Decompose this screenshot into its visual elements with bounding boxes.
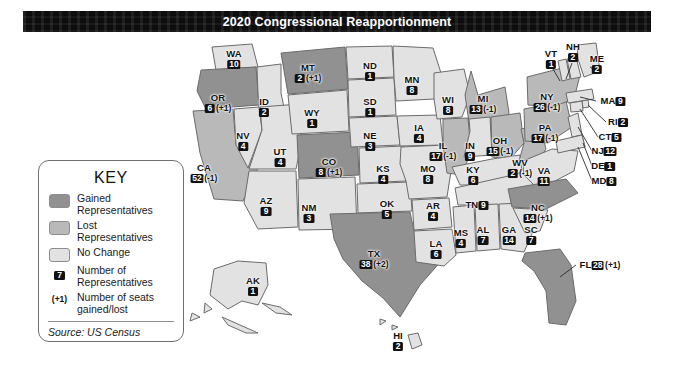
state-seats-row-la: 6 bbox=[430, 249, 443, 259]
state-seat-count-sd: 1 bbox=[365, 108, 375, 118]
state-label-ms: MS4 bbox=[454, 228, 468, 248]
state-seat-count-il: 17 bbox=[430, 152, 443, 162]
state-seats-row-va: 11 bbox=[538, 176, 551, 186]
map-island-1 bbox=[190, 313, 200, 321]
state-seats-row-ca: 52(-1) bbox=[191, 173, 218, 183]
state-seats-row-tx: 38(+2) bbox=[359, 259, 388, 269]
state-seat-count-az: 9 bbox=[261, 207, 271, 217]
state-delta-mi: (-1) bbox=[483, 104, 496, 114]
state-label-mt: MT2(+1) bbox=[295, 63, 322, 83]
state-seats-row-tn: 9 bbox=[478, 199, 488, 210]
state-seat-count-wy: 1 bbox=[307, 119, 317, 129]
state-seat-count-vt: 1 bbox=[546, 60, 556, 70]
state-delta-pa: (-1) bbox=[545, 133, 558, 143]
state-seats-row-sc: 7 bbox=[524, 235, 537, 245]
state-label-la: LA6 bbox=[430, 239, 443, 259]
state-label-mo: MO8 bbox=[420, 164, 436, 184]
state-seats-row-ok: 5 bbox=[380, 209, 394, 219]
state-nj[interactable] bbox=[568, 113, 582, 137]
state-label-me: ME2 bbox=[590, 54, 604, 74]
state-seat-count-in: 9 bbox=[465, 152, 475, 162]
state-seat-count-mi: 13 bbox=[470, 105, 483, 115]
state-label-ny: NY26(-1) bbox=[534, 92, 561, 112]
state-abbr-nj: NJ bbox=[591, 145, 603, 156]
state-seat-count-me: 2 bbox=[592, 65, 602, 75]
state-delta-co: (+1) bbox=[327, 167, 342, 177]
state-abbr-mo: MO bbox=[420, 164, 436, 174]
state-label-sd: SD1 bbox=[363, 97, 376, 117]
legend-item-label-3: Number ofRepresentatives bbox=[77, 265, 153, 289]
state-delta-mt: (+1) bbox=[306, 73, 321, 83]
legend-delta-sample: (+1) bbox=[49, 294, 70, 304]
state-seat-count-nj: 12 bbox=[604, 147, 617, 157]
state-seat-count-nv: 4 bbox=[238, 142, 248, 152]
legend-item-label-4: Number of seatsgained/lost bbox=[77, 292, 154, 316]
legend-title: KEY bbox=[48, 169, 174, 187]
state-md[interactable] bbox=[556, 135, 585, 153]
state-hi[interactable] bbox=[408, 333, 422, 349]
state-seats-row-wa: 10 bbox=[226, 59, 242, 69]
state-abbr-ks: KS bbox=[376, 164, 389, 174]
state-label-il: IL17(-1) bbox=[430, 141, 457, 161]
state-seats-row-ri: 2 bbox=[618, 116, 628, 127]
state-label-co: CO8(+1) bbox=[316, 157, 343, 177]
state-abbr-sc: SC bbox=[524, 225, 537, 235]
leader-line-ri bbox=[588, 105, 606, 122]
state-abbr-id: ID bbox=[259, 97, 269, 107]
state-seat-count-ar: 4 bbox=[428, 212, 438, 222]
legend-item-2: No Change bbox=[48, 247, 174, 262]
state-abbr-nd: ND bbox=[363, 61, 377, 71]
title-banner: 2020 Congressional Reapportionment bbox=[23, 11, 651, 32]
state-abbr-nh: NH bbox=[566, 42, 580, 52]
state-fl[interactable] bbox=[522, 249, 576, 325]
state-seat-count-wv: 2 bbox=[508, 169, 518, 179]
state-seats-row-wv: 2(-1) bbox=[508, 168, 532, 178]
state-label-ri: RI2 bbox=[608, 117, 628, 127]
state-abbr-wi: WI bbox=[442, 95, 454, 105]
state-seat-count-ky: 6 bbox=[468, 176, 478, 186]
state-seats-row-me: 2 bbox=[590, 64, 604, 74]
state-delta-ca: (-1) bbox=[204, 173, 217, 183]
state-seat-count-ok: 5 bbox=[382, 210, 392, 220]
state-seats-row-de: 1 bbox=[605, 160, 615, 171]
state-abbr-wa: WA bbox=[226, 49, 242, 59]
map-island-3 bbox=[262, 303, 292, 315]
state-seat-count-id: 2 bbox=[259, 108, 269, 118]
state-seats-row-ne: 3 bbox=[363, 141, 376, 151]
state-seats-row-oh: 15(-1) bbox=[487, 146, 514, 156]
state-label-wi: WI8 bbox=[442, 95, 454, 115]
state-abbr-ar: AR bbox=[426, 201, 440, 211]
state-seat-count-ms: 4 bbox=[456, 239, 466, 249]
state-abbr-de: DE bbox=[591, 160, 604, 171]
state-seats-row-ak: 1 bbox=[246, 286, 260, 296]
state-label-mn: MN8 bbox=[405, 75, 420, 95]
state-abbr-md: MD bbox=[591, 175, 606, 186]
state-abbr-ut: UT bbox=[274, 147, 287, 157]
state-label-ne: NE3 bbox=[363, 131, 376, 151]
leader-line-ct bbox=[580, 109, 598, 137]
state-seats-row-nh: 2 bbox=[566, 52, 580, 62]
state-seats-row-wi: 8 bbox=[442, 105, 454, 115]
state-seat-count-mo: 8 bbox=[423, 175, 433, 185]
state-seat-count-md: 8 bbox=[606, 177, 616, 187]
state-label-fl: FL28(+1) bbox=[580, 260, 621, 270]
state-seat-count-mt: 2 bbox=[295, 74, 305, 84]
state-abbr-ri: RI bbox=[608, 116, 618, 127]
state-seat-count-ga: 14 bbox=[503, 236, 516, 246]
state-seat-count-ri: 2 bbox=[618, 118, 628, 128]
state-seats-row-vt: 1 bbox=[545, 59, 557, 69]
state-abbr-il: IL bbox=[430, 141, 457, 151]
state-seats-row-ny: 26(-1) bbox=[534, 102, 561, 112]
state-seats-row-ky: 6 bbox=[466, 175, 479, 185]
state-label-ky: KY6 bbox=[466, 165, 479, 185]
legend-item-label-1: LostRepresentatives bbox=[77, 220, 153, 244]
state-label-ia: IA4 bbox=[414, 123, 424, 143]
state-abbr-vt: VT bbox=[545, 49, 557, 59]
state-label-vt: VT1 bbox=[545, 49, 557, 69]
state-abbr-nv: NV bbox=[236, 131, 249, 141]
state-seats-row-il: 17(-1) bbox=[430, 151, 457, 161]
state-abbr-la: LA bbox=[430, 239, 443, 249]
state-abbr-ct: CT bbox=[598, 131, 611, 142]
state-seat-count-nm: 3 bbox=[304, 214, 314, 224]
legend-item-3: 7Number ofRepresentatives bbox=[48, 265, 174, 289]
